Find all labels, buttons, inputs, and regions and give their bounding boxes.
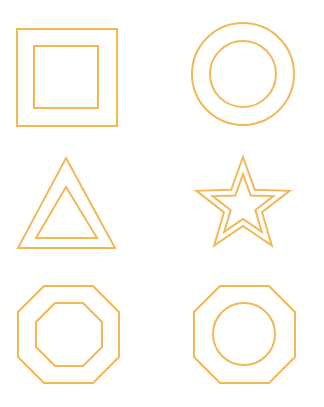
- shapes-canvas: [0, 0, 324, 407]
- canvas-background: [0, 0, 324, 407]
